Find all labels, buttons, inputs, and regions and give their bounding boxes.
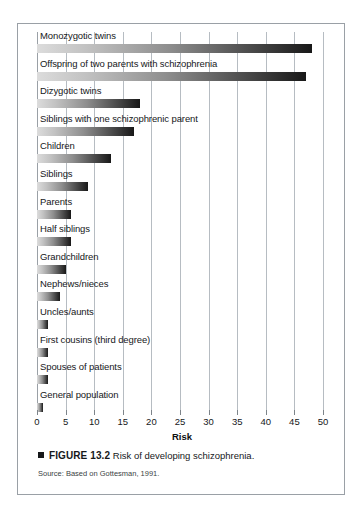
x-tick-40 [266, 410, 267, 415]
bar-category-label: Siblings [40, 167, 72, 180]
x-tick-label: 30 [197, 416, 221, 427]
bar-rows: Monozygotic twinsOffspring of two parent… [18, 24, 346, 414]
x-tick-label: 0 [25, 416, 49, 427]
x-tick-15 [123, 410, 124, 415]
bar-track [37, 72, 306, 81]
x-tick-45 [294, 410, 295, 415]
bar-track [37, 292, 60, 301]
bar-track [37, 265, 66, 274]
bar-category-label: Siblings with one schizophrenic parent [40, 112, 198, 125]
bar [37, 44, 312, 53]
chart-row: Spouses of patients [18, 360, 346, 388]
x-tick-label: 20 [139, 416, 163, 427]
x-tick-25 [180, 410, 181, 415]
bar-track [37, 320, 48, 329]
bar-category-label: Half siblings [40, 222, 90, 235]
bar-track [37, 182, 88, 191]
bar [37, 154, 111, 163]
chart-row: Parents [18, 195, 346, 223]
x-tick-label: 25 [168, 416, 192, 427]
figure-number: FIGURE 13.2 [49, 450, 110, 461]
bar [37, 127, 134, 136]
bar-category-label: First cousins (third degree) [40, 333, 150, 346]
bar-track [37, 210, 71, 219]
chart-row: Children [18, 139, 346, 167]
bar-track [37, 44, 312, 53]
chart-row: Siblings [18, 167, 346, 195]
figure-source: Source: Based on Gottesman, 1991. [38, 469, 333, 478]
x-tick-label: 15 [111, 416, 135, 427]
bar [37, 237, 71, 246]
bar-category-label: Dizygotic twins [40, 84, 101, 97]
bar [37, 320, 48, 329]
chart-row: Half siblings [18, 222, 346, 250]
bar-track [37, 375, 48, 384]
bar-category-label: Parents [40, 195, 72, 208]
x-tick-label: 5 [54, 416, 78, 427]
figure-frame: Monozygotic twinsOffspring of two parent… [17, 23, 345, 495]
bar-category-label: Nephews/nieces [40, 277, 108, 290]
x-tick-50 [323, 410, 324, 415]
x-tick-label: 10 [82, 416, 106, 427]
bar-category-label: Offspring of two parents with schizophre… [40, 57, 217, 70]
x-axis-title: Risk [18, 431, 346, 442]
x-tick-0 [37, 410, 38, 415]
bar [37, 292, 60, 301]
chart-row: Monozygotic twins [18, 29, 346, 57]
bar [37, 348, 48, 357]
bar [37, 375, 48, 384]
chart-row: Grandchildren [18, 250, 346, 278]
x-tick-label: 50 [311, 416, 335, 427]
bar-category-label: Grandchildren [40, 250, 98, 263]
bar-category-label: Spouses of patients [40, 360, 122, 373]
bar [37, 72, 306, 81]
chart-row: Uncles/aunts [18, 305, 346, 333]
chart-row: Nephews/nieces [18, 277, 346, 305]
bar-category-label: Children [40, 139, 75, 152]
bar [37, 182, 88, 191]
chart-row: First cousins (third degree) [18, 333, 346, 361]
figure-caption-text: Risk of developing schizophrenia. [113, 450, 255, 461]
figure-caption: FIGURE 13.2 Risk of developing schizophr… [38, 449, 333, 462]
x-tick-35 [237, 410, 238, 415]
x-tick-10 [94, 410, 95, 415]
square-bullet-icon [38, 452, 44, 458]
bar-track [37, 237, 71, 246]
x-tick-label: 45 [282, 416, 306, 427]
bar-category-label: Uncles/aunts [40, 305, 94, 318]
figure-caption-block: FIGURE 13.2 Risk of developing schizophr… [38, 449, 333, 478]
x-axis-tick-labels: 05101520253035404550 [18, 416, 346, 430]
x-tick-30 [209, 410, 210, 415]
bar-track [37, 348, 48, 357]
chart-row: Dizygotic twins [18, 84, 346, 112]
bar [37, 210, 71, 219]
bar [37, 99, 140, 108]
bar-track [37, 99, 140, 108]
bar-track [37, 127, 134, 136]
bar-track [37, 154, 111, 163]
bar-category-label: General population [40, 388, 118, 401]
chart-row: Offspring of two parents with schizophre… [18, 57, 346, 85]
x-tick-5 [66, 410, 67, 415]
x-tick-label: 40 [254, 416, 278, 427]
x-tick-label: 35 [225, 416, 249, 427]
x-tick-20 [151, 410, 152, 415]
chart-plot-area: Monozygotic twinsOffspring of two parent… [18, 24, 346, 419]
bar [37, 265, 66, 274]
bar-category-label: Monozygotic twins [40, 29, 116, 42]
chart-row: Siblings with one schizophrenic parent [18, 112, 346, 140]
